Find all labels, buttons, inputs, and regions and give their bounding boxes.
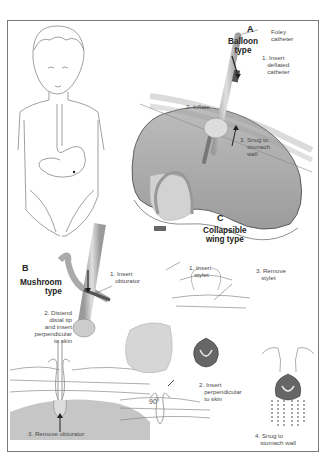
label-b-step2: 2. Distend distal tip and insert perpend… bbox=[10, 309, 72, 344]
label-a-step1: 1. Insert deflated catheter bbox=[262, 54, 290, 75]
label-c-step1: 1. Insert stylet bbox=[189, 264, 211, 278]
label-angle: 90° bbox=[149, 398, 160, 405]
label-foley-catheter: Foley catheter bbox=[271, 28, 293, 42]
panel-c-letter: C bbox=[217, 213, 224, 223]
panel-c-title: Collapsible wing type bbox=[203, 226, 247, 244]
label-c-step2: 2. Insert perpendicular to skin bbox=[199, 381, 242, 402]
panel-a-title: Balloon type bbox=[228, 37, 258, 55]
label-a-step2: 2. Inflate bbox=[186, 103, 210, 110]
label-c-step4: 4. Snug to stomach wall bbox=[255, 432, 296, 446]
panel-a-letter: A bbox=[247, 24, 254, 34]
panel-b-title: Mushroom type bbox=[20, 278, 62, 296]
label-c-step3: 3. Remove stylet bbox=[256, 267, 286, 281]
label-a-step3: 3. Snug to stomach wall bbox=[240, 136, 270, 157]
child-figure bbox=[18, 26, 104, 236]
label-b-step1: 1. Insert obturator bbox=[110, 270, 140, 284]
label-b-step3: 3. Remove obturator bbox=[28, 430, 84, 437]
panel-b-letter: B bbox=[22, 263, 29, 273]
